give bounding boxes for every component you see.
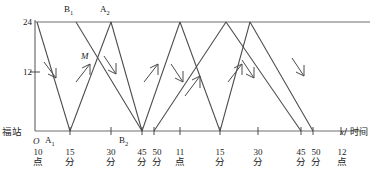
x-tick-5-unit: 点 — [168, 157, 192, 167]
y-tick-label-12: 12 — [16, 67, 32, 77]
y-tick-label-24: 24 — [16, 17, 32, 27]
x-tick-4-unit: 分 — [145, 157, 169, 167]
ascending-train-lines — [70, 22, 250, 131]
x-tick-6-unit: 分 — [208, 157, 232, 167]
point-label-m-name: M — [81, 51, 89, 61]
point-label-a1: A1 — [45, 135, 55, 147]
point-label-m: M — [81, 51, 89, 61]
x-tick-9-unit: 分 — [304, 157, 328, 167]
point-label-b2-sub: 2 — [125, 140, 128, 147]
point-label-b2: B2 — [119, 135, 128, 147]
origin-label: O — [33, 136, 40, 146]
x-tick-label-1: 15 分 — [58, 148, 82, 167]
x-tick-label-10: 12 点 — [330, 148, 354, 167]
x-tick-label-4: 50 分 — [145, 148, 169, 167]
x-tick-label-2: 30 分 — [99, 148, 123, 167]
x-tick-10-unit: 点 — [330, 157, 354, 167]
x-tick-0-unit: 点 — [26, 157, 50, 167]
point-label-a2: A2 — [100, 4, 110, 16]
x-axis-label: x/ 时间 — [340, 125, 368, 138]
x-tick-label-7: 30 分 — [246, 148, 270, 167]
point-label-a1-sub: 1 — [52, 140, 55, 147]
x-tick-1-unit: 分 — [58, 157, 82, 167]
point-label-b1: B1 — [64, 4, 73, 16]
x-tick-2-unit: 分 — [99, 157, 123, 167]
point-label-b1-sub: 1 — [70, 9, 73, 16]
x-tick-label-5: 11 点 — [168, 148, 192, 167]
y-axis-station-label: 福站 — [2, 124, 22, 138]
x-tick-label-0: 10 点 — [26, 148, 50, 167]
x-tick-label-9: 50 分 — [304, 148, 328, 167]
direction-arrows — [44, 56, 304, 96]
x-tick-7-unit: 分 — [246, 157, 270, 167]
point-label-a2-sub: 2 — [107, 9, 110, 16]
x-axis-label-unit: / 时间 — [344, 127, 368, 137]
x-tick-label-6: 15 分 — [208, 148, 232, 167]
descending-train-lines — [37, 22, 313, 131]
